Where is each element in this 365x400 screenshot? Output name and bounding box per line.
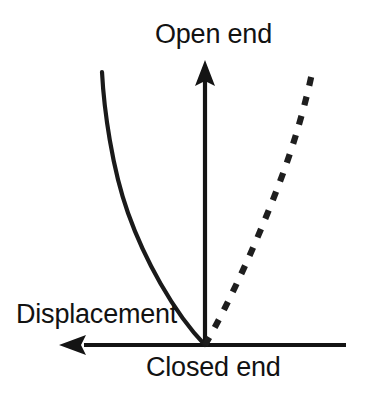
displacement-label: Displacement	[16, 301, 177, 328]
open-end-label: Open end	[155, 21, 272, 48]
dashed-displacement-curve	[205, 73, 312, 345]
horizontal-axis-arrowhead-icon	[59, 335, 86, 355]
closed-end-label: Closed end	[146, 354, 281, 381]
figure-container: Open end Closed end Displacement	[0, 0, 365, 400]
diagram-canvas	[0, 0, 365, 400]
